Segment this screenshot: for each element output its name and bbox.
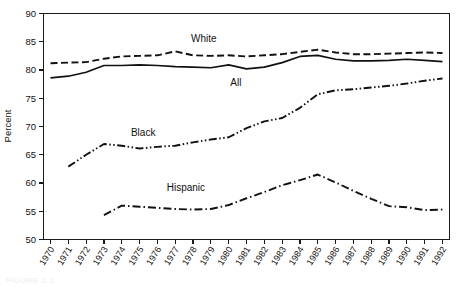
y-axis-title: Percent [2, 109, 13, 142]
y-tick-label: 60 [25, 177, 36, 188]
figure-container: 505560657075808590 197019711972197319741… [0, 0, 462, 287]
x-tick-label: 1970 [37, 245, 56, 267]
series-labels: WhiteAllBlackHispanic [131, 33, 241, 193]
y-tick-label: 55 [25, 206, 36, 217]
series-line-black [68, 78, 442, 166]
x-tick-label: 1978 [180, 245, 199, 267]
x-tick-label: 1980 [215, 245, 234, 267]
x-tick-label: 1986 [322, 245, 341, 267]
y-tick-label: 75 [25, 93, 36, 104]
x-tick-label: 1989 [376, 245, 395, 267]
y-tick-label: 70 [25, 121, 36, 132]
figure-caption: FIGURE 1-1 [6, 276, 54, 285]
x-tick-label: 1987 [340, 245, 359, 267]
x-tick-label: 1979 [198, 245, 217, 267]
y-tick-label: 85 [25, 36, 36, 47]
x-tick-label: 1984 [287, 245, 306, 267]
x-tick-label: 1981 [233, 245, 252, 267]
series-label-all: All [230, 77, 241, 88]
x-tick-label: 1977 [162, 245, 181, 267]
y-tick-label: 65 [25, 149, 36, 160]
series-label-white: White [191, 33, 217, 44]
y-tick-label: 50 [25, 234, 36, 245]
series-layer [51, 50, 443, 216]
x-tick-label: 1991 [411, 245, 430, 267]
x-tick-label: 1974 [109, 245, 128, 267]
x-tick-label: 1975 [126, 245, 145, 267]
line-chart: 505560657075808590 197019711972197319741… [0, 0, 462, 287]
x-tick-label: 1972 [73, 245, 92, 267]
x-tick-label: 1992 [429, 245, 448, 267]
x-tick-label: 1988 [358, 245, 377, 267]
x-tick-label: 1983 [269, 245, 288, 267]
y-axis-ticks: 505560657075808590 [25, 8, 43, 245]
y-tick-label: 90 [25, 8, 36, 19]
x-tick-label: 1973 [91, 245, 110, 267]
series-label-hispanic: Hispanic [167, 182, 205, 193]
series-line-hispanic [104, 175, 443, 216]
y-tick-label: 80 [25, 64, 36, 75]
x-axis-ticks: 1970197119721973197419751976197719781979… [37, 240, 448, 268]
x-tick-label: 1990 [394, 245, 413, 267]
x-tick-label: 1985 [305, 245, 324, 267]
x-tick-label: 1982 [251, 245, 270, 267]
series-label-black: Black [131, 127, 156, 138]
x-tick-label: 1971 [55, 245, 74, 267]
x-tick-label: 1976 [144, 245, 163, 267]
